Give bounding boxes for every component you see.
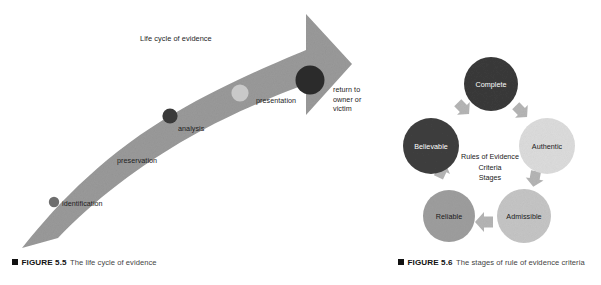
- figure-5-6-caption: FIGURE 5.6 The stages of rule of evidenc…: [398, 258, 585, 267]
- cycle-node-label-admissible: Admissible: [506, 212, 541, 221]
- stage-dot-presentation: [231, 84, 248, 101]
- center-line-3: Stages: [461, 173, 519, 184]
- cycle-node-label-authentic: Authentic: [532, 142, 562, 151]
- cycle-arrow-admissible-to-reliable: [475, 212, 493, 232]
- stage-label-return-to-owner: return to owner or victim: [333, 85, 373, 114]
- return-line-1: return to: [333, 85, 360, 94]
- rules-of-evidence-cycle-graphic: [380, 0, 601, 285]
- figure-5-5-caption: FIGURE 5.5 The life cycle of evidence: [12, 258, 157, 267]
- caption-square-icon: [398, 259, 404, 265]
- stage-label-preservation: preservation: [117, 156, 157, 165]
- figure-5-5-caption-label: FIGURE 5.5: [22, 258, 67, 267]
- center-line-2: Criteria: [461, 163, 519, 174]
- stage-dot-preservation: [95, 146, 106, 157]
- stage-dot-return-to-owner: [296, 66, 325, 95]
- stage-label-identification: identification: [62, 199, 103, 208]
- return-line-2: owner or: [333, 95, 361, 104]
- figure-5-6-caption-label: FIGURE 5.6: [408, 258, 453, 267]
- stage-dot-identification: [49, 197, 59, 207]
- cycle-arrow-complete-to-authentic: [509, 99, 533, 123]
- stage-dot-analysis: [162, 108, 177, 123]
- life-cycle-title: Life cycle of evidence: [140, 34, 212, 43]
- caption-square-icon: [12, 259, 18, 265]
- center-line-1: Rules of Evidence: [461, 152, 519, 163]
- figure-5-5: Life cycle of evidence identification pr…: [0, 0, 380, 285]
- return-line-3: victim: [333, 104, 352, 113]
- figure-5-5-caption-text: The life cycle of evidence: [70, 258, 157, 267]
- cycle-node-label-reliable: Reliable: [436, 212, 462, 221]
- cycle-node-label-complete: Complete: [475, 80, 506, 89]
- figure-5-6: Complete Authentic Admissible Reliable B…: [380, 0, 601, 285]
- figure-5-6-caption-text: The stages of rule of evidence criteria: [456, 258, 585, 267]
- cycle-center-text: Rules of Evidence Criteria Stages: [461, 152, 519, 184]
- figure-page: Life cycle of evidence identification pr…: [0, 0, 601, 285]
- stage-label-analysis: analysis: [178, 124, 204, 133]
- cycle-node-label-believable: Believable: [414, 142, 448, 151]
- stage-label-presentation: presentation: [256, 96, 296, 105]
